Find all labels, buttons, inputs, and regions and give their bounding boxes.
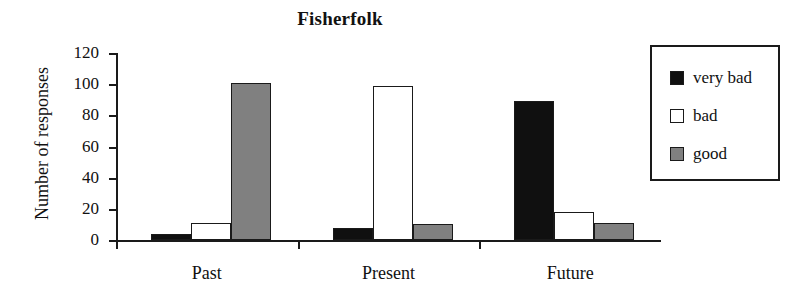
legend-item-very-bad[interactable]: very bad: [670, 59, 778, 97]
y-axis-tick-label: 60: [82, 136, 99, 156]
bar-future-very-bad: [514, 101, 554, 240]
x-axis-tick: [298, 240, 300, 249]
chart-title: Fisherfolk: [0, 8, 680, 30]
bar-future-good: [594, 223, 634, 240]
y-axis-tick-label: 120: [74, 43, 100, 63]
x-axis-tick: [479, 240, 481, 249]
x-axis-line: [116, 240, 661, 242]
y-axis-tick: 60: [109, 147, 116, 149]
legend-item-label: bad: [693, 106, 718, 126]
bar-past-good: [231, 83, 271, 240]
y-axis-tick: 120: [109, 53, 116, 55]
y-axis-line: [116, 53, 118, 241]
y-axis-tick-label: 100: [74, 74, 100, 94]
x-axis-label-present: Present: [362, 263, 415, 284]
y-axis-tick-label: 0: [91, 230, 100, 250]
y-axis-title: Number of responses: [32, 29, 53, 259]
bar-future-bad: [554, 212, 594, 240]
legend-item-label: very bad: [693, 68, 752, 88]
legend-item-bad[interactable]: bad: [670, 97, 778, 135]
y-axis-tick-label: 40: [82, 167, 99, 187]
legend-swatch-icon: [670, 109, 684, 123]
legend-item-label: good: [693, 144, 727, 164]
legend-item-good[interactable]: good: [670, 135, 778, 173]
x-axis-label-past: Past: [192, 263, 222, 284]
x-axis-label-future: Future: [547, 263, 594, 284]
y-axis-tick: 0: [109, 240, 116, 242]
y-axis-tick: 100: [109, 84, 116, 86]
legend-swatch-icon: [670, 71, 684, 85]
legend-swatch-icon: [670, 147, 684, 161]
bar-past-bad: [191, 223, 231, 240]
y-axis-tick: 20: [109, 209, 116, 211]
bar-past-very-bad: [151, 234, 191, 240]
y-axis-tick-label: 20: [82, 198, 99, 218]
chart-figure: Fisherfolk Number of responses 020406080…: [0, 0, 810, 306]
y-axis-tick: 40: [109, 178, 116, 180]
bar-present-good: [413, 224, 453, 240]
y-axis-tick-label: 80: [82, 105, 99, 125]
chart-legend: very badbadgood: [650, 45, 780, 181]
bar-present-very-bad: [333, 228, 373, 240]
x-axis-tick: [116, 240, 118, 249]
plot-area: 020406080100120: [116, 53, 661, 240]
y-axis-tick: 80: [109, 115, 116, 117]
bar-present-bad: [373, 86, 413, 240]
